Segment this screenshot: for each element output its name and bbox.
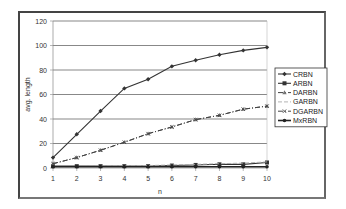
data-point-mxrbn: [241, 165, 245, 169]
x-tick-label: 10: [263, 175, 271, 182]
y-tick-label: 40: [39, 116, 47, 123]
y-tick-label: 0: [43, 165, 47, 172]
x-tick-label: 4: [122, 175, 126, 182]
y-axis-label: avg. length: [24, 77, 32, 111]
y-tick-label: 100: [35, 42, 47, 49]
data-point-crbn: [146, 77, 150, 81]
y-tick-label: 120: [35, 18, 47, 25]
legend-marker-arbn: [283, 81, 287, 85]
x-tick-label: 8: [217, 175, 221, 182]
data-point-mxrbn: [194, 165, 198, 169]
x-tick-label: 1: [51, 175, 55, 182]
y-tick-label: 80: [39, 67, 47, 74]
legend-marker-mxrbn: [283, 119, 287, 123]
data-point-mxrbn: [170, 165, 174, 169]
x-tick-label: 7: [194, 175, 198, 182]
data-point-mxrbn: [75, 165, 79, 169]
legend-label-garbn: GARBN: [293, 98, 318, 105]
data-point-crbn: [217, 52, 221, 56]
legend-label-darbn: DARBN: [293, 89, 318, 96]
x-axis-label: n: [158, 188, 162, 195]
data-point-mxrbn: [146, 165, 150, 169]
x-tick-label: 6: [170, 175, 174, 182]
data-point-mxrbn: [123, 165, 127, 169]
y-tick-label: 20: [39, 140, 47, 147]
legend-label-arbn: ARBN: [293, 80, 312, 87]
y-tick-label: 60: [39, 91, 47, 98]
x-tick-label: 2: [75, 175, 79, 182]
x-tick-label: 5: [146, 175, 150, 182]
data-point-crbn: [193, 58, 197, 62]
line-chart: 02040608010012012345678910navg. lengthCR…: [0, 0, 346, 209]
data-point-crbn: [241, 48, 245, 52]
legend-label-dgarbn: DGARBN: [293, 108, 323, 115]
data-point-mxrbn: [51, 165, 55, 169]
legend-label-crbn: CRBN: [293, 71, 313, 78]
series-line-dgarbn: [53, 106, 267, 164]
legend-label-mxrbn: MxRBN: [293, 117, 317, 124]
data-point-mxrbn: [265, 165, 269, 169]
x-tick-label: 3: [99, 175, 103, 182]
data-point-mxrbn: [218, 165, 222, 169]
x-tick-label: 9: [241, 175, 245, 182]
data-point-mxrbn: [99, 165, 103, 169]
series-line-crbn: [53, 47, 267, 157]
data-point-crbn: [170, 64, 174, 68]
data-point-arbn: [265, 160, 269, 164]
